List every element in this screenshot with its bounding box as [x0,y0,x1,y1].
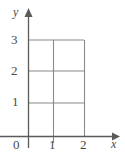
y-tick-label-2: 2 [11,64,18,77]
x-tick-label-1: 1 [49,138,56,151]
x-axis-label: x [111,138,116,150]
x-tick-label-2: 2 [80,138,87,151]
y-axis-arrow-icon [25,8,33,17]
y-tick-label-3: 3 [11,33,18,46]
origin-label: 0 [13,138,20,151]
coordinate-grid-figure: 3 2 1 0 1 2 y x [0,0,125,163]
y-axis-label: y [13,6,18,18]
y-tick-label-1: 1 [12,95,19,108]
